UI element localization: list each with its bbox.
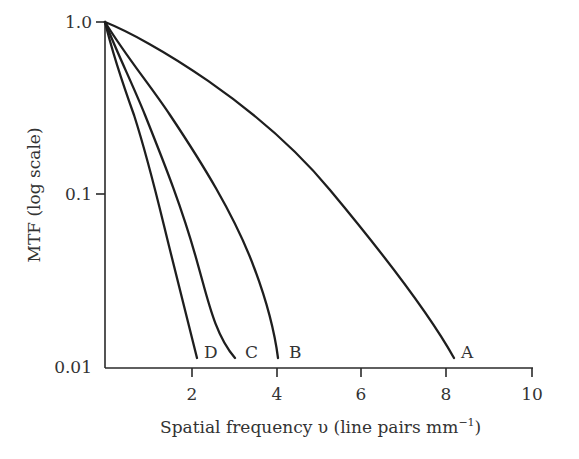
x-axis-title-superscript: −1: [458, 416, 474, 429]
curve-label-C: C: [245, 342, 258, 362]
y-tick-label-0.1: 0.1: [65, 184, 92, 204]
y-tick-label-1: 1.0: [65, 12, 92, 32]
mtf-chart: 1.0 0.1 0.01 2 4 6 8 10 MTF (log scale) …: [0, 0, 579, 459]
x-tick-label-4: 4: [272, 384, 283, 404]
x-axis-title-main: Spatial frequency υ (line pairs mm: [160, 417, 458, 437]
x-tick-label-8: 8: [441, 384, 452, 404]
curve-D: [105, 22, 197, 358]
x-tick-label-10: 10: [521, 384, 543, 404]
y-axis-title: MTF (log scale): [24, 127, 44, 262]
curve-label-D: D: [204, 342, 218, 362]
curve-B: [105, 22, 278, 358]
x-axis-title: Spatial frequency υ (line pairs mm−1): [160, 416, 481, 437]
x-tick-label-6: 6: [356, 384, 367, 404]
curve-A: [105, 22, 454, 358]
curve-C: [105, 22, 235, 358]
x-axis-title-close: ): [475, 417, 482, 437]
axes: [96, 22, 533, 377]
curves: [105, 22, 454, 358]
x-tick-label-2: 2: [187, 384, 198, 404]
y-tick-label-0.01: 0.01: [54, 357, 92, 377]
curve-label-B: B: [289, 342, 302, 362]
curve-label-A: A: [460, 342, 474, 362]
